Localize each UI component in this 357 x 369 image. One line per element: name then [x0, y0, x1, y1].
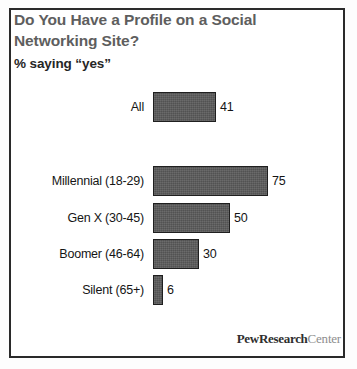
bar-track: 41: [153, 92, 332, 122]
bar-track: 6: [153, 275, 332, 305]
bar-row-gen-x: Gen X (30-45) 50: [0, 203, 332, 233]
bar-silent: [153, 275, 163, 305]
bar-category-label: Silent (65+): [0, 283, 153, 297]
bar-row-silent: Silent (65+) 6: [0, 275, 332, 305]
logo-secondary-text: Center: [308, 331, 341, 346]
bar-boomer: [153, 239, 199, 269]
bar-track: 50: [153, 203, 332, 233]
bar-value-label: 75: [272, 174, 286, 188]
bar-category-label: Boomer (46-64): [0, 247, 153, 261]
chart-header: Do You Have a Profile on a Social Networ…: [14, 10, 347, 71]
bar-all: [153, 92, 216, 122]
bar-category-label: Millennial (18-29): [0, 174, 153, 188]
bar-gen-x: [153, 203, 230, 233]
chart-figure: Do You Have a Profile on a Social Networ…: [0, 0, 357, 369]
bar-value-label: 41: [220, 100, 234, 114]
bar-track: 75: [153, 166, 332, 196]
logo-primary-text: PewResearch: [237, 331, 308, 346]
bar-chart-plot: All 41 Millennial (18-29) 75 Gen X (30-4…: [0, 92, 332, 304]
pew-research-center-logo: PewResearchCenter: [237, 331, 341, 347]
bar-value-label: 30: [203, 247, 217, 261]
bar-category-label: All: [0, 100, 153, 114]
bar-value-label: 50: [234, 211, 248, 225]
bar-row-millennial: Millennial (18-29) 75: [0, 166, 332, 196]
bar-millennial: [153, 166, 268, 196]
page-title: Do You Have a Profile on a Social Networ…: [14, 10, 347, 51]
bar-row-all: All 41: [0, 92, 332, 122]
bar-row-boomer: Boomer (46-64) 30: [0, 239, 332, 269]
bar-category-label: Gen X (30-45): [0, 211, 153, 225]
chart-subtitle: % saying “yes”: [14, 56, 347, 71]
bar-value-label: 6: [167, 283, 174, 297]
bar-track: 30: [153, 239, 332, 269]
